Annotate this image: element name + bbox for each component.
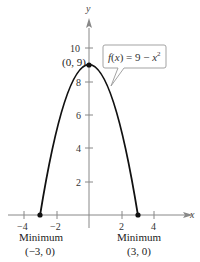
min-left-title: Minimum xyxy=(19,231,63,243)
min-right-coord: (3, 0) xyxy=(127,245,151,258)
y-tick-label: 8 xyxy=(76,77,81,88)
min-left-point xyxy=(37,212,42,217)
y-tick-label: 6 xyxy=(76,110,81,121)
vertex-label: (0, 9) xyxy=(62,56,86,69)
vertex-point xyxy=(86,62,91,67)
x-axis-label: x xyxy=(189,209,195,220)
y-tick-label: 2 xyxy=(76,177,81,188)
y-axis-label: y xyxy=(85,3,91,14)
y-tick-label: 4 xyxy=(76,143,81,154)
function-label: f(x) = 9 − x2 xyxy=(108,50,161,64)
min-right-point xyxy=(135,212,140,217)
min-right-title: Minimum xyxy=(117,231,161,243)
min-left-coord: (−3, 0) xyxy=(25,245,55,258)
y-tick-label: 10 xyxy=(70,43,80,54)
y-axis-arrow-icon xyxy=(86,18,92,28)
parabola-chart: x y −4 −2 2 4 2 4 6 8 10 (0, 9) f(x) = 9… xyxy=(0,0,200,262)
